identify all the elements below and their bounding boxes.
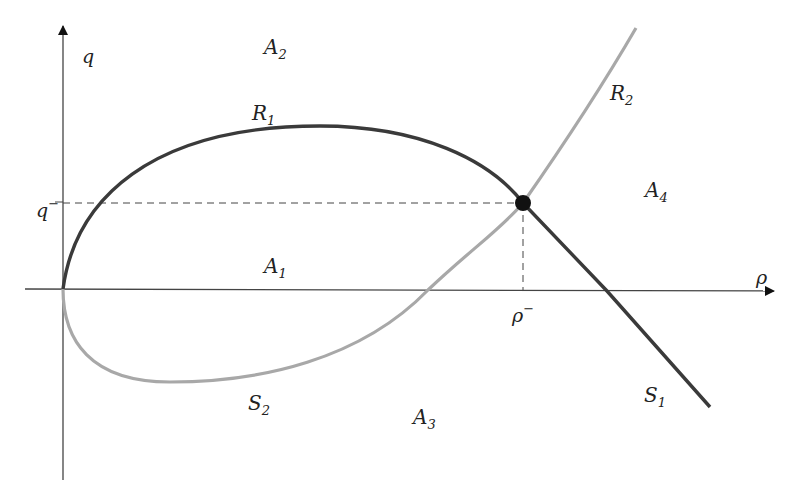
x-axis-label: ρ <box>755 266 768 288</box>
region-a3-label: A3 <box>411 405 436 432</box>
intersection-point <box>515 195 531 211</box>
q-minus-label: q− <box>36 196 59 221</box>
curve-s1 <box>523 203 710 407</box>
phase-diagram: q ρ q− ρ− R1 R2 S1 S2 A1 A2 A3 A4 <box>0 0 810 503</box>
curve-r1-label: R1 <box>251 101 275 128</box>
curve-s2-label: S2 <box>248 391 270 418</box>
curve-r2 <box>523 28 636 203</box>
y-axis-label: q <box>82 45 94 67</box>
curve-s1-label: S1 <box>644 383 666 410</box>
region-a2-label: A2 <box>262 35 287 62</box>
region-a4-label: A4 <box>643 178 668 205</box>
curve-r2-label: R2 <box>609 81 633 108</box>
region-a1-label: A1 <box>262 254 287 281</box>
x-axis <box>25 289 774 291</box>
curve-s2 <box>63 203 523 382</box>
rho-minus-label: ρ− <box>511 301 534 326</box>
